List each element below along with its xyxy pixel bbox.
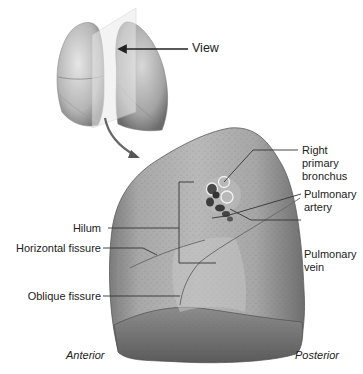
- label-horizontal-fissure: Horizontal fissure: [16, 242, 101, 255]
- label-pulmonary-artery: Pulmonary artery: [304, 188, 357, 214]
- label-oblique-fissure: Oblique fissure: [28, 290, 101, 303]
- vein-lumen: [215, 205, 225, 212]
- label-line: vein: [304, 261, 357, 274]
- label-line: Right: [302, 144, 347, 157]
- artery-lumen: [206, 198, 214, 207]
- label-line: Pulmonary: [304, 248, 357, 261]
- view-label: View: [192, 42, 219, 55]
- right-lung-medial: [110, 128, 305, 363]
- label-line: primary: [302, 157, 347, 170]
- label-hilum: Hilum: [73, 222, 101, 235]
- label-posterior: Posterior: [295, 349, 339, 362]
- label-line: Pulmonary: [304, 188, 357, 201]
- label-line: bronchus: [302, 170, 347, 183]
- view-plane: [92, 8, 136, 128]
- small-lungs-view: [57, 8, 188, 158]
- label-anterior: Anterior: [66, 349, 105, 362]
- lung-diagram: View Right primary bronchus Pulmonary ar…: [0, 0, 363, 374]
- label-line: artery: [304, 201, 357, 214]
- label-right-primary-bronchus: Right primary bronchus: [302, 144, 347, 183]
- diagram-graphics: [0, 0, 363, 374]
- label-pulmonary-vein: Pulmonary vein: [304, 248, 357, 274]
